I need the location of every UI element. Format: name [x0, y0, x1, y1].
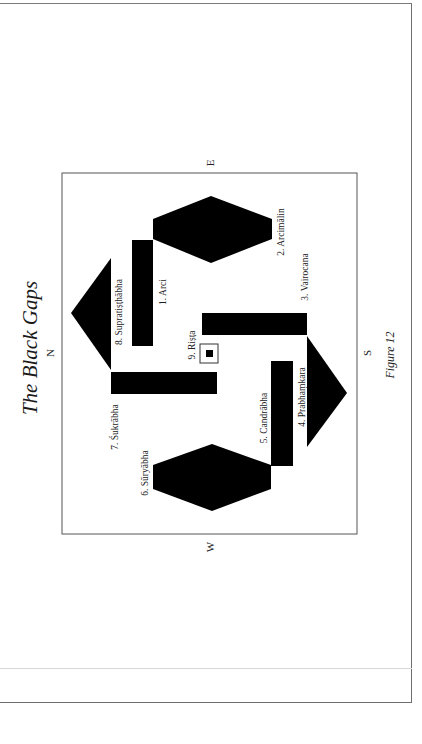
page-title: The Black Gaps — [18, 281, 42, 415]
gap-8-triangle — [71, 258, 111, 370]
compass-east: E — [204, 159, 216, 166]
gap-7-label: 7. Śukrābha — [109, 404, 120, 450]
black-gaps-diagram: The Black Gaps N E S W 8. Supratiṣṭhābha… — [0, 0, 422, 744]
gap-3-rectangle — [202, 313, 307, 335]
gap-1-label: 1. Arci — [158, 279, 168, 305]
gap-3-label: 3. Vairocana — [300, 253, 310, 301]
gap-5-rectangle — [271, 361, 293, 466]
compass-west: W — [204, 541, 216, 552]
gap-9-label: 9. Riṣṭa — [187, 330, 197, 360]
figure-caption: Figure 12 — [383, 331, 397, 379]
gap-6-hexagon — [153, 444, 271, 511]
gap-9-inner-square — [206, 350, 213, 357]
gap-4-triangle — [307, 336, 347, 447]
compass-north: N — [44, 349, 56, 357]
gap-2-hexagon — [153, 196, 272, 263]
gap-8-label: 8. Supratiṣṭhābha — [114, 278, 124, 345]
gap-4-label: 4. Prabhaṃkara — [297, 366, 308, 426]
compass-south: S — [361, 350, 373, 356]
gap-6-label: 6. Sūryābha — [140, 450, 150, 496]
gap-1-rectangle — [132, 240, 153, 346]
gap-5-label: 5. Candrābha — [259, 392, 269, 443]
gap-7-rectangle — [111, 372, 217, 394]
gap-2-label: 2. Arcimālin — [276, 208, 286, 256]
